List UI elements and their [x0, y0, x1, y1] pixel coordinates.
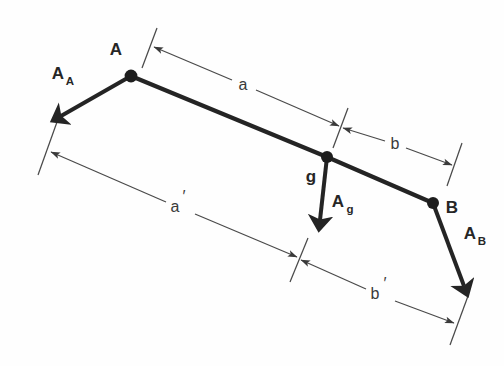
node-label-a: A — [110, 40, 122, 59]
force-label-a-g-subscript: g — [346, 203, 353, 215]
force-vector-a-g — [320, 157, 327, 220]
dimension-a-right-segment — [256, 90, 339, 126]
tick-a-right-icon — [333, 108, 348, 148]
dimension-b-right-segment — [406, 148, 452, 165]
dimension-b-prime-label-group: b ′ — [371, 275, 387, 302]
dimension-b-prime-mark: ′ — [384, 275, 387, 292]
force-label-a-g: A g — [332, 192, 354, 215]
dimension-a-prime-right-segment — [195, 214, 297, 257]
diagram-canvas: a b a ′ b ′ — [0, 0, 504, 366]
dimension-b-prime-left-segment — [301, 260, 366, 289]
dimension-b-prime: b ′ — [301, 260, 454, 323]
dimension-a: a — [154, 47, 339, 126]
dimension-a-prime-label: a — [171, 198, 180, 215]
dimension-b-prime-right-segment — [395, 301, 454, 323]
tick-a-prime-right-icon — [290, 238, 308, 282]
dimension-a-left-segment — [154, 47, 232, 80]
node-dot-b — [427, 197, 439, 209]
dimension-b-label: b — [391, 135, 400, 152]
node-label-g: g — [306, 167, 316, 186]
tick-a-prime-left-icon — [38, 122, 57, 175]
dimension-a-prime-left-segment — [51, 152, 166, 202]
node-dot-g — [321, 151, 333, 163]
force-label-a-a-base: A — [52, 64, 64, 83]
dimension-b-left-segment — [343, 128, 385, 141]
force-label-a-b-base: A — [464, 224, 476, 243]
force-a-g-shaft — [320, 157, 327, 220]
node-label-b: B — [446, 198, 458, 217]
force-label-a-b: A B — [464, 224, 486, 247]
vector-diagram-figure: a b a ′ b ′ — [0, 0, 504, 366]
extension-tick-group — [38, 28, 468, 345]
dimension-a-prime-mark: ′ — [183, 188, 186, 205]
force-label-a-g-base: A — [332, 192, 344, 211]
tick-a-left-icon — [142, 28, 157, 68]
dimension-a-prime: a ′ — [51, 152, 297, 257]
dimension-a-prime-label-group: a ′ — [171, 188, 186, 215]
beam-polyline — [131, 76, 433, 203]
force-label-a-a: A A — [52, 64, 74, 87]
force-label-a-a-subscript: A — [66, 75, 74, 87]
dimension-b: b — [343, 128, 452, 165]
force-label-a-b-subscript: B — [478, 235, 486, 247]
dimension-a-label: a — [239, 76, 248, 93]
node-dot-a — [125, 70, 138, 83]
tick-b-prime-right-icon — [450, 296, 468, 345]
dimension-b-prime-label: b — [371, 285, 380, 302]
